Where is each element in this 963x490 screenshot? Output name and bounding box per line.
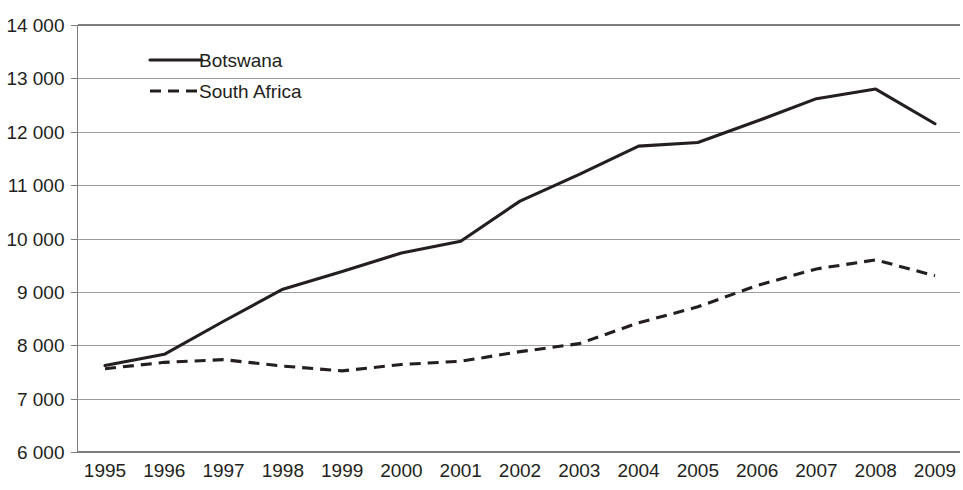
line-chart: 14 00013 00012 00011 00010 0009 0008 000…: [0, 0, 963, 490]
y-tick-label: 9 000: [17, 282, 65, 303]
x-tick-label: 1999: [321, 460, 363, 481]
x-tick-label: 2009: [914, 460, 956, 481]
y-tick-marks: [71, 26, 78, 453]
chart-svg: 14 00013 00012 00011 00010 0009 0008 000…: [0, 0, 963, 490]
data-series-layer: [105, 89, 935, 371]
y-tick-label: 14 000: [6, 15, 64, 36]
legend-label-south-africa: South Africa: [199, 81, 302, 102]
legend-label-botswana: Botswana: [199, 50, 283, 71]
x-axis-tick-labels: 1995199619971998199920002001200220032004…: [84, 460, 956, 481]
y-tick-label: 6 000: [17, 442, 65, 463]
x-tick-label: 2004: [617, 460, 660, 481]
y-tick-label: 11 000: [8, 175, 65, 196]
series-line-botswana: [105, 89, 935, 365]
x-tick-label: 2008: [855, 460, 897, 481]
x-tick-label: 2000: [380, 460, 422, 481]
x-tick-label: 2007: [795, 460, 837, 481]
x-tick-label: 2005: [677, 460, 719, 481]
y-tick-label: 8 000: [17, 335, 65, 356]
y-tick-label: 7 000: [17, 389, 65, 410]
x-tick-label: 2001: [440, 460, 482, 481]
chart-legend: BotswanaSouth Africa: [150, 50, 302, 102]
y-axis-tick-labels: 14 00013 00012 00011 00010 0009 0008 000…: [6, 15, 64, 463]
y-tick-label: 13 000: [6, 68, 64, 89]
x-tick-label: 1995: [84, 460, 126, 481]
x-tick-label: 2003: [558, 460, 600, 481]
y-tick-label: 10 000: [6, 229, 64, 250]
x-tick-label: 1996: [143, 460, 185, 481]
series-line-south-africa: [105, 260, 935, 371]
x-tick-label: 1998: [262, 460, 304, 481]
y-tick-label: 12 000: [6, 122, 64, 143]
x-tick-label: 1997: [202, 460, 244, 481]
x-tick-label: 2006: [736, 460, 778, 481]
x-tick-label: 2002: [499, 460, 541, 481]
